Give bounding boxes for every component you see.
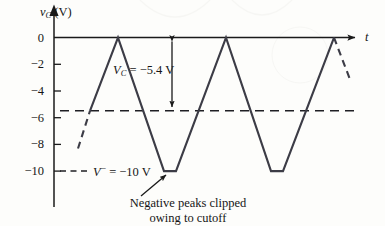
clipping-caption-line1: Negative peaks clipped [130, 196, 247, 210]
x-axis-label: t [365, 31, 368, 44]
vc-level-annotation: VC = −5.4 V [113, 64, 174, 78]
waveform-dashed-right [334, 38, 351, 82]
y-tick-label-0: 0 [10, 32, 44, 45]
y-tick-label-minus10: −10 [10, 165, 44, 178]
y-tick-label-minus2: −2 [10, 58, 44, 71]
y-tick-label-minus4: −4 [10, 85, 44, 98]
clipping-caption-line2: owing to cutoff [150, 211, 227, 225]
y-axis-ticks [54, 64, 61, 171]
clipping-caption: Negative peaks clippedowing to cutoff [92, 196, 284, 226]
y-tick-label-minus6: −6 [10, 112, 44, 125]
y-axis [49, 5, 58, 208]
plot-canvas [0, 0, 385, 226]
y-axis-title: vC (V) [40, 6, 72, 20]
figure-waveform-clipped: vC (V) t 0 −2 −4 −6 −8 −10 VC = −5.4 V V… [0, 0, 385, 226]
y-tick-label-minus8: −8 [10, 138, 44, 151]
vminus-level-annotation: V− = −10 V [93, 165, 151, 178]
waveform-dashed-left [78, 111, 90, 149]
waveform-solid [90, 38, 334, 172]
